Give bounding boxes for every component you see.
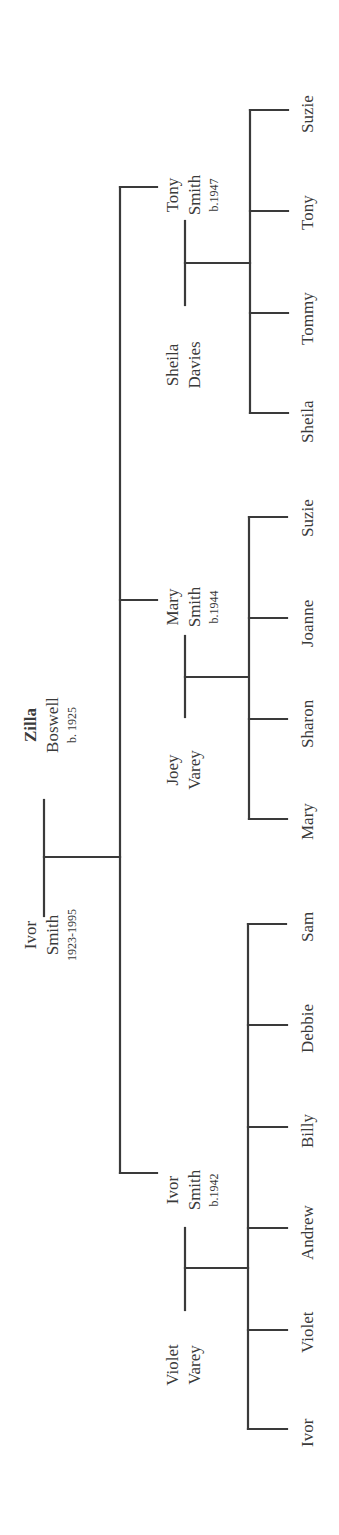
dates: 1923-1995: [66, 870, 79, 1000]
last-name: Smith: [182, 130, 208, 260]
person-zilla-boswell: Zilla Boswell b. 1925: [18, 660, 79, 790]
grandchild-ivor: Ivor: [298, 1419, 318, 1447]
person-ivor-smith-sr: Ivor Smith 1923-1995: [18, 870, 79, 1000]
grandchild-suzie-varey: Suzie: [298, 499, 318, 537]
last-name: Varey: [182, 710, 208, 830]
last-name: Davies: [182, 290, 208, 440]
grandchild-sheila: Sheila: [298, 401, 318, 444]
grandchild-tommy: Tommy: [298, 292, 318, 345]
dates: b. 1925: [66, 660, 79, 790]
last-name: Varey: [182, 1290, 208, 1440]
dates: b.1942: [208, 1125, 221, 1255]
dates: b.1944: [208, 542, 221, 672]
last-name: Smith: [40, 870, 66, 1000]
grandchild-sharon: Sharon: [298, 700, 318, 748]
person-joey-varey: Joey Varey: [160, 710, 208, 830]
grandchild-billy: Billy: [298, 1114, 318, 1148]
grandchild-violet: Violet: [298, 1312, 318, 1353]
last-name: Boswell: [40, 660, 66, 790]
grandchild-debbie: Debbie: [298, 1004, 318, 1053]
grandchild-andrew: Andrew: [298, 1205, 318, 1260]
grandchild-tony: Tony: [298, 195, 318, 230]
person-tony-smith: Tony Smith b.1947: [160, 130, 221, 260]
last-name: Smith: [182, 542, 208, 672]
grandchild-mary: Mary: [298, 803, 318, 840]
person-sheila-davies: Sheila Davies: [160, 290, 208, 440]
person-ivor-smith-jr: Ivor Smith b.1942: [160, 1125, 221, 1255]
grandchild-sam: Sam: [298, 912, 318, 942]
dates: b.1947: [208, 130, 221, 260]
person-mary-smith: Mary Smith b.1944: [160, 542, 221, 672]
grandchild-joanne: Joanne: [298, 600, 318, 647]
grandchild-suzie-davies: Suzie: [298, 95, 318, 133]
last-name: Smith: [182, 1125, 208, 1255]
person-violet-varey: Violet Varey: [160, 1290, 208, 1440]
